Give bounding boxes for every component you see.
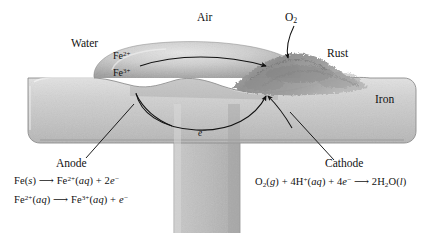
equation-anode-line1: Fe(s) ⟶ Fe2+(aq) + 2e− — [14, 176, 119, 187]
label-anode: Anode — [56, 158, 87, 170]
label-electron-flow: e− — [198, 128, 207, 138]
label-iron: Iron — [375, 94, 394, 106]
oxygen-arrow — [287, 26, 294, 58]
label-ion-fe2: Fe2+ — [113, 51, 130, 61]
corrosion-diagram: Air Water Rust Iron O2 Fe2+ Fe3+ e− Anod… — [0, 0, 442, 233]
label-water: Water — [71, 38, 98, 50]
label-ion-fe3: Fe3+ — [113, 68, 130, 78]
label-oxygen: O2 — [285, 12, 297, 25]
equation-anode-line2: Fe2+(aq) ⟶ Fe3+(aq) + e− — [14, 195, 128, 206]
iron-beam — [28, 77, 416, 233]
equation-cathode-line1: O2(g) + 4H+(aq) + 4e− ⟶ 2H2O(l) — [255, 177, 406, 189]
label-cathode: Cathode — [325, 158, 363, 170]
label-air: Air — [197, 12, 212, 24]
label-rust: Rust — [327, 48, 348, 60]
